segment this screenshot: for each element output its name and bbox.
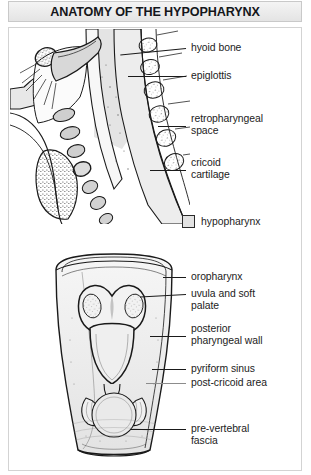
figure-title-bar: ANATOMY OF THE HYPOPHARYNX <box>8 1 302 22</box>
tracheal-rings <box>80 178 114 224</box>
prevertebral-soft-tissue <box>114 29 186 224</box>
posterior-pharynx-illustration <box>38 248 190 466</box>
anatomy-figure: ANATOMY OF THE HYPOPHARYNX <box>0 0 311 475</box>
page-title: ANATOMY OF THE HYPOPHARYNX <box>50 5 260 19</box>
sagittal-section-illustration <box>10 29 190 224</box>
hypopharynx-legend-swatch-icon <box>182 215 195 228</box>
hypopharynx-legend-label: hypopharynx <box>201 215 261 228</box>
post-cricoid-area-structure <box>92 393 136 437</box>
thyroid-gland <box>36 150 77 219</box>
